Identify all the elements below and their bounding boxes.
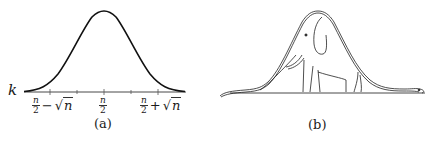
- boa-outline: [220, 11, 424, 96]
- panel-a-plot: [24, 11, 186, 95]
- bell-curve: [24, 11, 185, 92]
- y-axis-label: k: [8, 83, 17, 98]
- elephant-ear: [314, 17, 327, 54]
- figure-canvas: [0, 0, 441, 141]
- fraction: n 2: [99, 96, 107, 115]
- sqrt-symbol: √n: [55, 97, 74, 113]
- elephant-front-leg: [303, 60, 320, 92]
- panel-b-drawing: [220, 11, 425, 97]
- tick-label-left: n 2 −√n: [32, 96, 73, 115]
- fraction: n 2: [32, 96, 40, 115]
- tick-label-center: n 2: [99, 96, 107, 115]
- tick-label-right: n 2 +√n: [140, 96, 181, 115]
- elephant-back-leg: [354, 72, 361, 92]
- fraction: n 2: [140, 96, 148, 115]
- elephant-belly: [318, 72, 346, 92]
- caption-b: (b): [308, 118, 326, 131]
- boa-eye-icon: [418, 89, 420, 91]
- caption-a: (a): [94, 117, 112, 130]
- elephant-eye-icon: [305, 34, 307, 36]
- elephant-tusk: [286, 55, 304, 69]
- sqrt-symbol: √n: [163, 97, 182, 113]
